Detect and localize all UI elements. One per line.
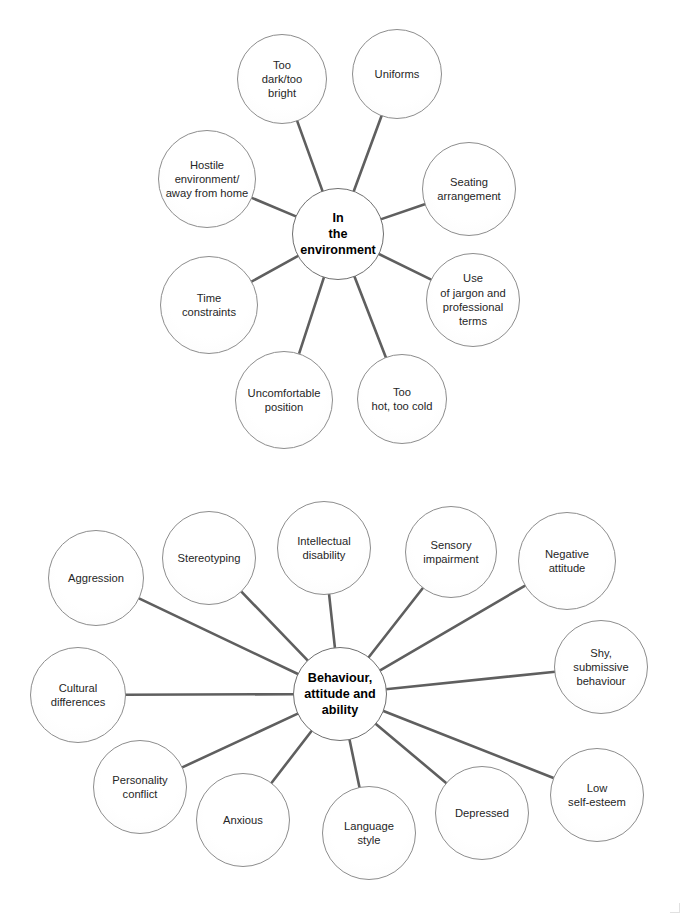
node-label: Too dark/too bright — [256, 58, 308, 101]
connector-environment-too-hot-too-cold — [354, 276, 386, 358]
node-aggression[interactable]: Aggression — [48, 530, 144, 626]
node-personality-conflict[interactable]: Personality conflict — [93, 740, 187, 834]
node-label: Language style — [338, 819, 400, 848]
center-node-behaviour[interactable]: Behaviour, attitude and ability — [293, 647, 387, 741]
node-time-constraints[interactable]: Time constraints — [160, 256, 258, 354]
node-too-dark-too-bright[interactable]: Too dark/too bright — [237, 34, 327, 124]
node-label: Shy, submissive behaviour — [567, 646, 634, 689]
node-label: Cultural differences — [45, 681, 112, 710]
node-hostile-environment-away-from-home[interactable]: Hostile environment/ away from home — [158, 130, 256, 228]
node-depressed[interactable]: Depressed — [435, 766, 529, 860]
center-node-environment[interactable]: In the environment — [292, 188, 384, 280]
connector-environment-too-dark-too-bright — [297, 120, 323, 191]
node-label: Uniforms — [369, 67, 426, 81]
node-label: Personality conflict — [106, 773, 173, 802]
node-label: Intellectual disability — [291, 534, 357, 563]
node-label: Anxious — [217, 813, 269, 827]
node-label: Too hot, too cold — [366, 385, 439, 414]
node-low-self-esteem[interactable]: Low self-esteem — [550, 748, 644, 842]
node-stereotyping[interactable]: Stereotyping — [162, 511, 256, 605]
connector-behaviour-depressed — [375, 724, 446, 784]
connector-environment-use-of-jargon-and-professional-terms — [378, 254, 431, 280]
connector-behaviour-intellectual-disability — [329, 594, 335, 649]
node-uncomfortable-position[interactable]: Uncomfortable position — [235, 351, 333, 449]
connector-behaviour-sensory-impairment — [368, 587, 423, 657]
node-label: Time constraints — [176, 291, 242, 320]
node-negative-attitude[interactable]: Negative attitude — [518, 512, 616, 610]
node-too-hot-too-cold[interactable]: Too hot, too cold — [357, 354, 447, 444]
connector-behaviour-negative-attitude — [380, 585, 526, 670]
node-anxious[interactable]: Anxious — [196, 773, 290, 867]
mindmap-page: Too dark/too brightUniformsSeating arran… — [0, 0, 684, 917]
connector-environment-seating-arrangement — [381, 204, 426, 219]
node-cultural-differences[interactable]: Cultural differences — [30, 647, 126, 743]
connector-environment-time-constraints — [251, 256, 299, 282]
center-node-label: Behaviour, attitude and ability — [298, 670, 381, 718]
node-label: Hostile environment/ away from home — [160, 158, 255, 201]
connector-environment-uniforms — [354, 115, 382, 191]
connector-behaviour-personality-conflict — [182, 713, 299, 767]
connector-behaviour-anxious — [271, 730, 312, 783]
node-shy-submissive-behaviour[interactable]: Shy, submissive behaviour — [554, 620, 648, 714]
node-label: Depressed — [449, 806, 515, 820]
node-sensory-impairment[interactable]: Sensory impairment — [405, 506, 497, 598]
node-language-style[interactable]: Language style — [322, 786, 416, 880]
node-label: Low self-esteem — [562, 781, 632, 810]
node-label: Use of jargon and professional terms — [434, 271, 511, 328]
connector-environment-hostile-environment-away-from-home — [251, 198, 296, 217]
node-label: Uncomfortable position — [242, 386, 327, 415]
node-label: Sensory impairment — [417, 538, 484, 567]
page-corner-mark — [670, 903, 680, 913]
connector-behaviour-cultural-differences — [125, 694, 294, 695]
node-uniforms[interactable]: Uniforms — [352, 29, 442, 119]
connector-behaviour-shy-submissive-behaviour — [386, 672, 555, 690]
diagram-behaviour-attitude-ability: AggressionStereotypingIntellectual disab… — [0, 480, 684, 917]
node-intellectual-disability[interactable]: Intellectual disability — [277, 501, 371, 595]
connector-behaviour-stereotyping — [241, 591, 308, 661]
diagram-in-the-environment: Too dark/too brightUniformsSeating arran… — [0, 0, 684, 480]
node-seating-arrangement[interactable]: Seating arrangement — [422, 142, 516, 236]
node-label: Negative attitude — [539, 547, 595, 576]
node-label: Stereotyping — [172, 551, 247, 565]
connector-environment-uncomfortable-position — [299, 277, 324, 355]
node-label: Aggression — [62, 571, 130, 585]
node-use-of-jargon-and-professional-terms[interactable]: Use of jargon and professional terms — [426, 253, 520, 347]
node-label: Seating arrangement — [431, 175, 506, 204]
connector-behaviour-language-style — [349, 739, 359, 788]
center-node-label: In the environment — [294, 210, 382, 258]
connector-behaviour-aggression — [138, 598, 298, 674]
